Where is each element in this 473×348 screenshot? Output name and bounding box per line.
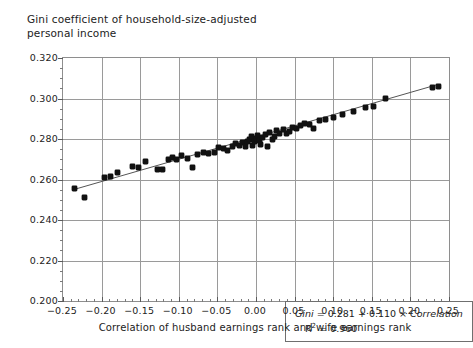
scatter-point xyxy=(185,156,190,161)
scatter-point xyxy=(258,142,263,147)
y-tick-label: 0.320 xyxy=(18,52,58,63)
scatter-point xyxy=(340,112,345,117)
scatter-point xyxy=(243,144,248,149)
scatter-point xyxy=(311,126,316,131)
scatter-point xyxy=(317,118,322,123)
scatter-point xyxy=(212,150,217,155)
scatter-point xyxy=(351,109,356,114)
scatter-point xyxy=(190,165,195,170)
scatter-point xyxy=(82,195,87,200)
scatter-point xyxy=(206,151,211,156)
chart-title: Gini coefficient of household-size-adjus… xyxy=(27,12,357,40)
y-tick-label: 0.240 xyxy=(18,214,58,225)
y-tick-label: 0.280 xyxy=(18,133,58,144)
scatter-point xyxy=(363,105,368,110)
scatter-point xyxy=(383,96,388,101)
scatter-point xyxy=(179,153,184,158)
scatter-point xyxy=(143,159,148,164)
scatter-point xyxy=(331,115,336,120)
x-axis-tick-labels: −0.25−0.20−0.15−0.10−0.050.000.050.100.1… xyxy=(62,305,448,319)
y-tick-label: 0.260 xyxy=(18,173,58,184)
y-tick-label: 0.300 xyxy=(18,92,58,103)
scatter-point xyxy=(115,170,120,175)
plot-area: Gini = 0.281 + 0.110 × Correlation R2 = … xyxy=(62,57,450,302)
scatter-point xyxy=(108,174,113,179)
scatter-point xyxy=(430,85,435,90)
scatter-point xyxy=(72,186,77,191)
scatter-point xyxy=(174,157,179,162)
scatter-point xyxy=(160,167,165,172)
regression-fit-line xyxy=(63,58,449,301)
scatter-point xyxy=(436,84,441,89)
scatter-point xyxy=(136,165,141,170)
scatter-point xyxy=(371,104,376,109)
scatter-point xyxy=(225,148,230,153)
y-tick-label: 0.200 xyxy=(18,295,58,306)
scatter-point xyxy=(130,164,135,169)
scatter-point xyxy=(195,152,200,157)
x-axis-label: Correlation of husband earnings rank and… xyxy=(62,322,448,333)
y-tick-major xyxy=(58,301,63,302)
scatter-point xyxy=(323,117,328,122)
y-tick-label: 0.220 xyxy=(18,254,58,265)
scatter-point xyxy=(265,144,270,149)
y-axis-tick-labels: 0.2000.2200.2400.2600.2800.3000.320 xyxy=(14,57,58,300)
x-tick-label: 0.25 xyxy=(425,305,471,316)
scatter-point xyxy=(155,167,160,172)
scatter-point xyxy=(272,134,277,139)
scatter-point xyxy=(102,175,107,180)
scatter-point xyxy=(201,150,206,155)
